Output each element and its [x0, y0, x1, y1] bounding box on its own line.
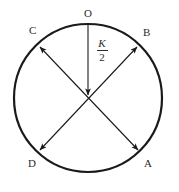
- point-label-a: A: [144, 158, 152, 169]
- fraction-numerator: K: [92, 38, 112, 50]
- fraction-denominator: 2: [92, 51, 112, 63]
- point-label-d: D: [28, 158, 36, 169]
- point-label-c: C: [29, 25, 37, 36]
- point-label-b: B: [143, 27, 151, 38]
- radius-fraction-label: K 2: [92, 38, 112, 63]
- geometry-figure: O C B D A K 2: [0, 0, 179, 192]
- point-label-o: O: [84, 8, 92, 19]
